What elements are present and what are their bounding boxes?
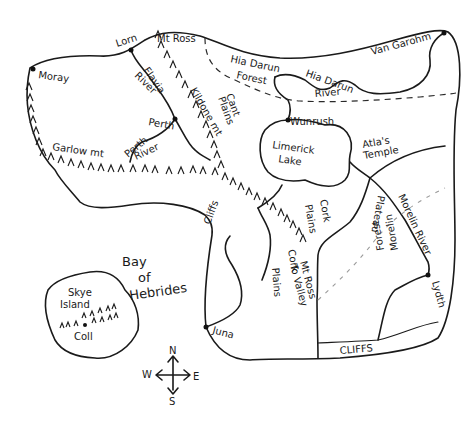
label-skye-island: Island: [60, 299, 90, 310]
label-morelin-river: Morelin River: [396, 192, 434, 257]
label-wunrush: Wunrush: [290, 116, 334, 127]
label-cliffs-south: CLIFFS: [339, 342, 373, 356]
cork-ridge-mountains: [230, 178, 306, 242]
town-marker-lydth: [426, 273, 431, 278]
label-cliffs-west: Cliffs: [202, 199, 221, 226]
label-lydth: Lydth: [430, 280, 448, 309]
label-cork-north-plains: Plains: [303, 203, 319, 234]
label-morelin-forest: Morelin: [383, 214, 400, 252]
lake-outflow-east: [350, 162, 370, 178]
map-canvas: Moray Lorn Mt Ross Flavia River Kildone …: [0, 0, 467, 423]
town-marker-moray: [31, 67, 36, 72]
skye-island: [46, 272, 139, 359]
compass-w: W: [142, 369, 152, 380]
label-cork-north: Cork: [318, 198, 333, 223]
south-cliffs-edge: [318, 322, 438, 343]
cork-west-river: [258, 208, 271, 280]
label-kildone-mt: Kildone mt: [188, 86, 225, 138]
town-marker-coll: [83, 323, 87, 327]
label-van-garohm: Van Garohm: [370, 30, 432, 57]
label-coll: Coll: [74, 331, 93, 342]
label-mt-ross: Mt Ross: [157, 33, 196, 44]
town-marker-lorn: [129, 48, 134, 53]
juna-river: [206, 236, 242, 327]
compass-s: S: [169, 396, 175, 407]
label-skye: Skye: [68, 287, 92, 298]
label-garlow-mt: Garlow mt: [52, 141, 105, 159]
label-limerick-lake: Lake: [278, 153, 303, 167]
label-perth: Perth: [148, 116, 176, 131]
label-moray: Moray: [38, 69, 70, 84]
town-marker-van-garohm: [442, 31, 447, 36]
label-cork-south-plains: Plains: [270, 267, 284, 297]
label-hia-darun-forest-2: Forest: [236, 69, 268, 86]
compass-arrows-icon: [156, 356, 190, 394]
compass-n: N: [169, 345, 176, 356]
label-of: of: [138, 270, 151, 285]
lydth-river: [378, 275, 428, 340]
hand-drawn-map: Moray Lorn Mt Ross Flavia River Kildone …: [0, 0, 467, 423]
town-marker-juna: [204, 325, 209, 330]
compass-e: E: [193, 371, 199, 382]
label-hia-darun-river-2: River: [314, 86, 342, 99]
wunrush-stream: [274, 77, 290, 120]
compass-rose: N S E W: [142, 345, 199, 407]
label-juna: Juna: [211, 324, 236, 341]
label-bay: Bay: [122, 254, 147, 269]
